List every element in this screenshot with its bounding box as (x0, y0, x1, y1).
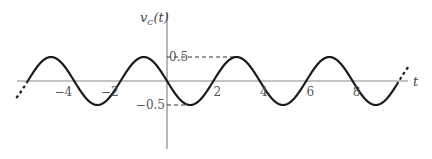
y-axis-label: vC(t) (140, 10, 169, 27)
x-tick-label: −2 (101, 85, 119, 99)
x-tick-label: −4 (54, 85, 72, 99)
chart-svg: −4−22468 0.5 −0.5 vC(t) t (0, 0, 432, 159)
curve-right-extension (397, 66, 410, 85)
x-tick-label: 8 (353, 85, 361, 99)
curve-left-extension (16, 81, 28, 98)
x-tick-label: 6 (306, 85, 314, 99)
x-tick-label: 4 (260, 85, 268, 99)
y-tick-label-pos: 0.5 (169, 50, 188, 64)
y-tick-label-neg: −0.5 (136, 98, 165, 112)
x-axis-label: t (413, 74, 419, 89)
x-tick-label: 2 (214, 85, 222, 99)
